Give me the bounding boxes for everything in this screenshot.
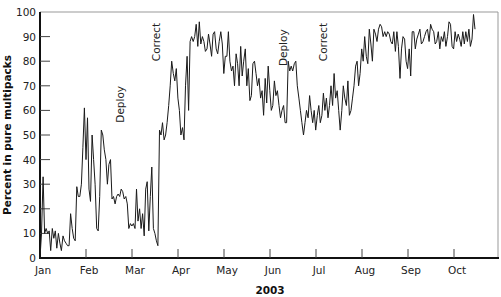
y-tick-label: 50 bbox=[23, 129, 36, 141]
x-axis-title: 2003 bbox=[255, 284, 284, 296]
y-tick-label: 100 bbox=[16, 6, 36, 18]
x-tick-label: Aug bbox=[355, 264, 376, 276]
data-line bbox=[40, 15, 475, 259]
y-axis: 0102030405060708090100 bbox=[16, 6, 50, 264]
line-chart: 0102030405060708090100 JanFebMarAprMayJu… bbox=[0, 0, 501, 297]
y-tick-label: 20 bbox=[23, 203, 36, 215]
x-tick-label: Sep bbox=[401, 264, 421, 276]
x-tick-label: Jul bbox=[312, 264, 326, 276]
y-tick-label: 70 bbox=[23, 80, 36, 92]
x-tick-label: Jan bbox=[34, 264, 51, 276]
x-tick-label: Apr bbox=[172, 264, 191, 276]
x-tick-label: May bbox=[216, 264, 238, 276]
y-tick-label: 80 bbox=[23, 55, 36, 67]
y-tick-label: 30 bbox=[23, 178, 36, 190]
plot-frame bbox=[40, 12, 498, 258]
annotation-label: Deploy bbox=[277, 29, 289, 66]
x-tick-label: Mar bbox=[125, 264, 145, 276]
y-tick-label: 40 bbox=[23, 154, 36, 166]
y-axis-title: Percent in pure multipacks bbox=[1, 55, 13, 215]
y-tick-label: 0 bbox=[29, 252, 36, 264]
x-axis: JanFebMarAprMayJunJulAugSepOct bbox=[34, 249, 499, 276]
annotation-label: Deploy bbox=[114, 86, 126, 123]
y-tick-label: 10 bbox=[23, 227, 36, 239]
x-tick-label: Feb bbox=[80, 264, 99, 276]
annotation-label: Correct bbox=[150, 23, 162, 61]
annotation-label: Correct bbox=[317, 23, 329, 61]
x-tick-label: Oct bbox=[448, 264, 466, 276]
y-tick-label: 90 bbox=[23, 31, 36, 43]
y-tick-label: 60 bbox=[23, 104, 36, 116]
x-tick-label: Jun bbox=[264, 264, 281, 276]
